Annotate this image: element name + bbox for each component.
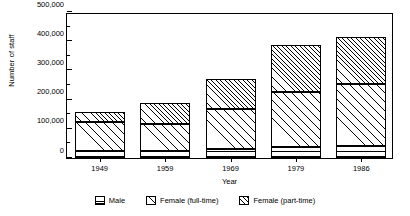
bar-segment-ft — [75, 122, 125, 151]
x-tick-label: 1969 — [201, 164, 261, 173]
bar-segment-pt — [206, 79, 256, 109]
bar-segment-male — [206, 149, 256, 158]
bar-segment-pt — [271, 45, 321, 92]
bar-segment-pt — [336, 37, 386, 84]
chart-legend: MaleFemale (full-time)Female (part-time) — [0, 196, 410, 205]
bar-segment-male — [75, 151, 125, 158]
bar-1949 — [75, 112, 125, 158]
bar-segment-ft — [336, 84, 386, 146]
x-tick — [165, 158, 166, 162]
bar-1969 — [206, 79, 256, 158]
bar-segment-male — [336, 146, 386, 158]
legend-item-ft: Female (full-time) — [146, 196, 218, 205]
y-tick-minor — [67, 26, 70, 27]
bar-segment-ft — [140, 124, 190, 151]
x-axis-title: Year — [66, 177, 393, 186]
x-tick-label: 1986 — [331, 164, 391, 173]
bar-segment-ft — [271, 92, 321, 147]
y-tick-minor — [67, 55, 70, 56]
bar-1986 — [336, 37, 386, 158]
y-tick-major — [67, 69, 72, 70]
bar-segment-male — [140, 151, 190, 158]
y-tick-minor — [67, 84, 70, 85]
legend-swatch-ft — [146, 196, 156, 205]
x-tick-label: 1959 — [135, 164, 195, 173]
y-tick-label: 0 — [60, 147, 64, 155]
bar-1979 — [271, 45, 321, 158]
y-tick-label: 400,000 — [37, 30, 64, 38]
y-tick-major — [67, 11, 72, 12]
legend-label: Female (part-time) — [253, 196, 315, 205]
chart-figure: Number of staff 0100,000200,000300,00040… — [0, 0, 410, 216]
y-tick-major — [67, 128, 72, 129]
x-tick — [296, 158, 297, 162]
bar-segment-pt — [140, 103, 190, 124]
bar-1959 — [140, 103, 190, 158]
legend-item-male: Male — [95, 196, 125, 205]
y-tick-minor — [67, 142, 70, 143]
y-tick-major — [67, 157, 72, 158]
y-axis-title: Number of staff — [7, 6, 16, 116]
y-tick-label: 300,000 — [37, 59, 64, 67]
y-tick-label: 100,000 — [37, 118, 64, 126]
legend-swatch-male — [95, 196, 105, 205]
x-tick — [231, 158, 232, 162]
y-tick-label: 500,000 — [37, 1, 64, 9]
y-tick-minor — [67, 113, 70, 114]
x-tick — [361, 158, 362, 162]
y-tick-major — [67, 99, 72, 100]
x-tick-label: 1979 — [266, 164, 326, 173]
legend-label: Male — [109, 196, 125, 205]
legend-label: Female (full-time) — [160, 196, 218, 205]
legend-item-pt: Female (part-time) — [239, 196, 315, 205]
bar-segment-pt — [75, 112, 125, 122]
bar-segment-male — [271, 147, 321, 158]
x-tick — [100, 158, 101, 162]
legend-swatch-pt — [239, 196, 249, 205]
bar-segment-ft — [206, 109, 256, 149]
y-tick-label: 200,000 — [37, 88, 64, 96]
plot-area: 0100,000200,000300,000400,000500,000 194… — [66, 13, 393, 159]
y-tick-major — [67, 40, 72, 41]
x-tick-label: 1949 — [70, 164, 130, 173]
